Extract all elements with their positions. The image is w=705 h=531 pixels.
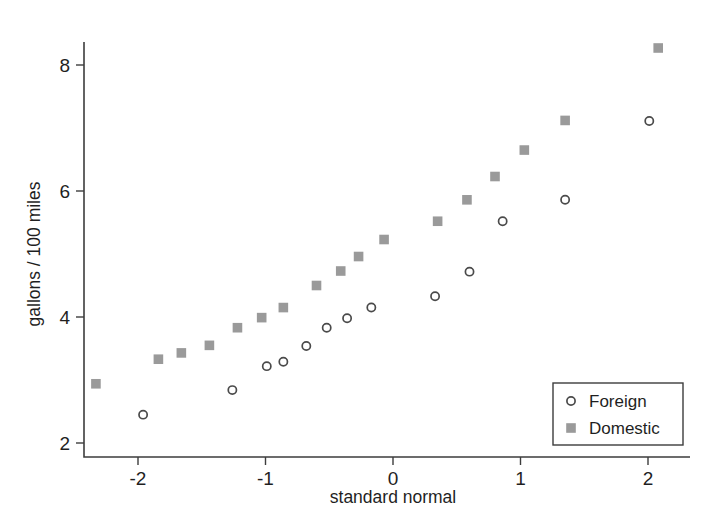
- y-tick-label-6: 6: [59, 181, 70, 202]
- data-point-foreign: [499, 217, 507, 225]
- data-point-domestic: [379, 235, 389, 245]
- data-point-foreign: [323, 324, 331, 332]
- legend-label-domestic[interactable]: Domestic: [589, 419, 660, 438]
- legend[interactable]: ForeignDomestic: [553, 383, 683, 445]
- x-axis-label: standard normal: [330, 487, 456, 507]
- data-point-domestic: [354, 252, 364, 262]
- data-point-domestic: [560, 116, 570, 126]
- series-foreign: [139, 117, 653, 419]
- axis-titles-group: standard normal gallons / 100 miles: [24, 181, 456, 507]
- data-point-domestic: [279, 303, 289, 313]
- x-tick-label-neg1: -1: [257, 468, 274, 489]
- data-point-domestic: [336, 266, 346, 276]
- y-axis-label: gallons / 100 miles: [24, 181, 44, 326]
- data-point-domestic: [154, 354, 164, 364]
- y-tick-label-2: 2: [59, 433, 70, 454]
- legend-marker-domestic: [566, 423, 576, 433]
- legend-label-foreign[interactable]: Foreign: [589, 392, 647, 411]
- data-point-domestic: [312, 281, 322, 291]
- data-point-foreign: [367, 303, 375, 311]
- data-point-domestic: [653, 43, 663, 53]
- data-point-foreign: [139, 411, 147, 419]
- data-point-foreign: [343, 314, 351, 322]
- data-point-domestic: [462, 195, 472, 205]
- y-tick-label-8: 8: [59, 55, 70, 76]
- data-point-domestic: [177, 348, 187, 358]
- data-points-group: [91, 43, 663, 419]
- x-tick-label-0: 0: [388, 468, 399, 489]
- data-point-foreign: [561, 196, 569, 204]
- data-point-domestic: [520, 145, 530, 155]
- data-point-foreign: [465, 268, 473, 276]
- data-point-domestic: [490, 172, 500, 182]
- data-point-foreign: [431, 292, 439, 300]
- data-point-foreign: [279, 358, 287, 366]
- data-point-domestic: [233, 323, 243, 333]
- data-point-foreign: [263, 362, 271, 370]
- data-point-domestic: [257, 313, 267, 323]
- x-tick-label-1: 1: [515, 468, 526, 489]
- scatter-plot-figure: 2468-2-1012 standard normal gallons / 10…: [0, 0, 705, 531]
- data-point-foreign: [302, 342, 310, 350]
- x-tick-label-2: 2: [643, 468, 654, 489]
- x-tick-label-neg2: -2: [130, 468, 147, 489]
- data-point-domestic: [205, 341, 215, 351]
- series-domestic: [91, 43, 663, 388]
- y-tick-label-4: 4: [59, 307, 70, 328]
- data-point-foreign: [645, 117, 653, 125]
- data-point-domestic: [433, 216, 443, 226]
- plot-canvas: 2468-2-1012 standard normal gallons / 10…: [0, 0, 705, 531]
- data-point-domestic: [91, 379, 101, 389]
- data-point-foreign: [228, 386, 236, 394]
